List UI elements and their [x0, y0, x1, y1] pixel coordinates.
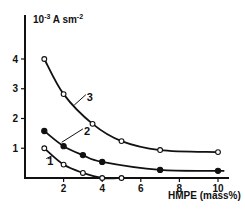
y-axis-label: 10-3 A sm-2: [33, 13, 83, 25]
series-label-2: 2: [84, 125, 90, 137]
chart: 1234246810 123 10-3 A sm-2 HMPE (mass%): [0, 0, 245, 214]
open-circle-marker: [119, 176, 124, 181]
y-tick-label: 2: [12, 113, 18, 124]
open-circle-marker: [90, 121, 95, 126]
open-circle-marker: [81, 171, 86, 176]
x-tick-label: 4: [99, 183, 105, 194]
open-circle-marker: [61, 162, 66, 167]
filled-circle-marker: [100, 159, 105, 164]
curves: [44, 59, 223, 178]
y-tick-label: 4: [12, 54, 18, 65]
filled-circle-marker: [215, 168, 220, 173]
x-axis-label: HMPE (mass%): [168, 190, 241, 201]
leader-line-3: [74, 95, 86, 105]
open-circle-marker: [100, 176, 105, 181]
filled-circle-marker: [80, 152, 85, 157]
series-label-3: 3: [87, 91, 93, 103]
open-circle-marker: [158, 148, 163, 153]
x-tick-label: 2: [61, 183, 67, 194]
series-label-1: 1: [47, 155, 53, 167]
filled-circle-marker: [158, 167, 163, 172]
open-circle-marker: [119, 139, 124, 144]
markers: [42, 57, 221, 181]
open-circle-marker: [61, 92, 66, 97]
open-circle-marker: [42, 146, 47, 151]
filled-circle-marker: [61, 144, 66, 149]
curve-series-3: [44, 59, 218, 152]
leader-line-2: [62, 129, 83, 142]
filled-circle-marker: [42, 128, 47, 133]
open-circle-marker: [216, 150, 221, 155]
open-circle-marker: [42, 57, 47, 62]
x-tick-label: 6: [138, 183, 144, 194]
y-tick-label: 1: [12, 143, 18, 154]
axes: 1234246810: [12, 15, 229, 194]
y-tick-label: 3: [12, 83, 18, 94]
